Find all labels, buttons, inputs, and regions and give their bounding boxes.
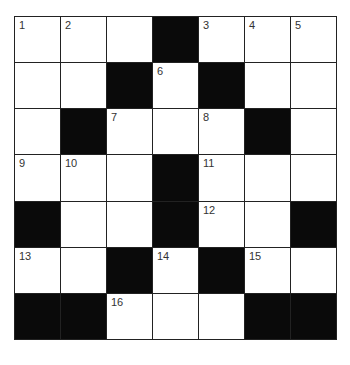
- crossword-cell[interactable]: 16: [107, 294, 153, 340]
- crossword-cell[interactable]: [291, 63, 337, 109]
- clue-number: 8: [203, 112, 209, 123]
- crossword-cell[interactable]: 14: [153, 248, 199, 294]
- crossword-cell[interactable]: [107, 155, 153, 201]
- crossword-cell[interactable]: [245, 202, 291, 248]
- crossword-grid: 12345678910111213141516: [14, 16, 337, 340]
- crossword-cell[interactable]: 1: [15, 17, 61, 63]
- clue-number: 7: [111, 112, 117, 123]
- black-cell: [107, 63, 153, 109]
- crossword-cell[interactable]: [153, 109, 199, 155]
- crossword-cell[interactable]: 11: [199, 155, 245, 201]
- crossword-cell[interactable]: 6: [153, 63, 199, 109]
- crossword-cell[interactable]: 2: [61, 17, 107, 63]
- black-cell: [199, 248, 245, 294]
- crossword-cell[interactable]: [245, 63, 291, 109]
- black-cell: [153, 17, 199, 63]
- clue-number: 5: [295, 20, 301, 31]
- black-cell: [153, 155, 199, 201]
- crossword-cell[interactable]: [15, 63, 61, 109]
- black-cell: [199, 63, 245, 109]
- crossword-cell[interactable]: 12: [199, 202, 245, 248]
- black-cell: [15, 294, 61, 340]
- black-cell: [15, 202, 61, 248]
- black-cell: [291, 202, 337, 248]
- clue-number: 10: [65, 158, 77, 169]
- clue-number: 2: [65, 20, 71, 31]
- crossword-cell[interactable]: 10: [61, 155, 107, 201]
- crossword-cell[interactable]: 13: [15, 248, 61, 294]
- crossword-cell[interactable]: [61, 202, 107, 248]
- black-cell: [245, 294, 291, 340]
- crossword-cell[interactable]: [291, 155, 337, 201]
- black-cell: [291, 294, 337, 340]
- clue-number: 9: [19, 158, 25, 169]
- crossword-cell[interactable]: [245, 155, 291, 201]
- crossword-cell[interactable]: 5: [291, 17, 337, 63]
- black-cell: [153, 202, 199, 248]
- clue-number: 12: [203, 205, 215, 216]
- crossword-cell[interactable]: [291, 109, 337, 155]
- crossword-cell[interactable]: 8: [199, 109, 245, 155]
- crossword-cell[interactable]: 7: [107, 109, 153, 155]
- clue-number: 1: [19, 20, 25, 31]
- clue-number: 15: [249, 251, 261, 262]
- clue-number: 14: [157, 251, 169, 262]
- black-cell: [61, 294, 107, 340]
- clue-number: 6: [157, 66, 163, 77]
- crossword-cell[interactable]: [107, 202, 153, 248]
- crossword-cell[interactable]: 15: [245, 248, 291, 294]
- crossword-cell[interactable]: [291, 248, 337, 294]
- clue-number: 11: [203, 158, 214, 169]
- crossword-cell[interactable]: [153, 294, 199, 340]
- clue-number: 4: [249, 20, 255, 31]
- crossword-cell[interactable]: [15, 109, 61, 155]
- clue-number: 16: [111, 297, 123, 308]
- black-cell: [245, 109, 291, 155]
- crossword-cell[interactable]: [199, 294, 245, 340]
- crossword-cell[interactable]: 9: [15, 155, 61, 201]
- crossword-cell[interactable]: [107, 17, 153, 63]
- clue-number: 3: [203, 20, 209, 31]
- crossword-cell[interactable]: [61, 248, 107, 294]
- crossword-cell[interactable]: 3: [199, 17, 245, 63]
- crossword-cell[interactable]: 4: [245, 17, 291, 63]
- crossword-cell[interactable]: [61, 63, 107, 109]
- clue-number: 13: [19, 251, 31, 262]
- black-cell: [61, 109, 107, 155]
- black-cell: [107, 248, 153, 294]
